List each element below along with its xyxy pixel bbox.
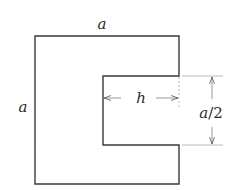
- c-shape-diagram: a a h a/2: [0, 0, 240, 190]
- c-shape-outline: [35, 36, 179, 184]
- label-left-side: a: [19, 98, 28, 116]
- label-slot-width-var: a: [199, 104, 208, 122]
- label-slot-depth: h: [136, 89, 146, 107]
- label-slot-width: a/2: [199, 104, 223, 122]
- label-top-side: a: [98, 15, 107, 33]
- label-slot-width-den: 2: [213, 104, 223, 122]
